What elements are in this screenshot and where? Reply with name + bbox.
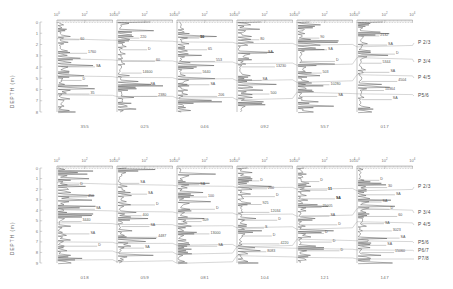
measurement-annotation: 60	[156, 59, 160, 63]
measurement-annotation: D	[260, 179, 263, 183]
measurement-annotation: 8083	[267, 250, 275, 254]
depth-tick-label: 2	[28, 42, 38, 47]
borehole-trace	[358, 168, 395, 264]
horizon-correlation-line	[57, 92, 414, 100]
figure-canvas: DEPTH (m) 012345678100102104355601760SAD…	[0, 0, 453, 289]
measurement-annotation: D	[396, 52, 399, 56]
depth-tick-label: 1	[28, 176, 38, 181]
measurement-annotation: D	[325, 231, 328, 235]
measurement-annotation: D	[338, 223, 341, 227]
measurement-annotation: D	[83, 78, 86, 82]
measurement-annotation: 11	[328, 188, 332, 192]
horizon-label: P 3/4	[418, 210, 431, 215]
horizon-correlation-line	[57, 39, 414, 47]
measurement-annotation: 60	[398, 214, 402, 218]
x-tick-label: 102	[142, 157, 148, 163]
x-tick-label: 102	[202, 11, 208, 17]
measurement-annotation: D	[278, 218, 281, 222]
depth-tick-label: 8	[28, 110, 38, 115]
x-tick-label: 102	[382, 11, 388, 17]
x-tick-label: 104	[409, 157, 415, 163]
x-tick-label: 100	[174, 157, 180, 163]
measurement-annotation: 1760	[88, 51, 96, 55]
measurement-annotation: D	[148, 48, 151, 52]
x-tick-label: 102	[262, 11, 268, 17]
horizon-label: P 4/5	[418, 75, 431, 80]
measurement-annotation: SA	[388, 43, 393, 47]
horizon-label: P5/6	[418, 240, 429, 245]
measurement-annotation: 3023	[393, 229, 401, 233]
measurement-annotation: 5640	[203, 71, 211, 75]
x-tick-label: 102	[322, 157, 328, 163]
measurement-annotation: D	[333, 240, 336, 244]
measurement-annotation: 65	[208, 48, 212, 52]
bottom-plot-svg	[0, 145, 453, 289]
measurement-annotation: 10280	[330, 83, 340, 87]
borehole-trace	[178, 168, 216, 264]
measurement-annotation: 503	[323, 71, 329, 75]
measurement-annotation: SA	[150, 83, 155, 87]
depth-tick-label: 2	[28, 187, 38, 192]
depth-tick-label: 3	[28, 197, 38, 202]
measurement-annotation: 80	[260, 38, 264, 42]
measurement-annotation: 500	[270, 92, 276, 96]
measurement-annotation: SA	[383, 200, 388, 204]
measurement-annotation: 400	[143, 214, 149, 218]
measurement-annotation: SA	[96, 65, 101, 69]
x-tick-label: 102	[142, 11, 148, 17]
x-tick-label: 102	[262, 157, 268, 163]
measurement-annotation: D	[380, 178, 383, 182]
x-tick-label: 100	[54, 11, 60, 17]
x-tick-label: 100	[234, 11, 240, 17]
measurement-annotation: SA	[393, 97, 398, 101]
x-tick-label: 100	[294, 11, 300, 17]
x-tick-label: 100	[114, 11, 120, 17]
measurement-annotation: SA	[90, 232, 95, 236]
measurement-annotation: 50	[200, 36, 204, 40]
depth-tick-label: 3	[28, 53, 38, 58]
borehole-label: 017	[345, 124, 425, 129]
depth-tick-label: 5	[28, 76, 38, 81]
x-tick-label: 100	[354, 157, 360, 163]
borehole-trace	[118, 168, 156, 263]
borehole-trace	[298, 22, 338, 113]
measurement-annotation: 90	[320, 36, 324, 40]
measurement-annotation: 5344	[383, 61, 391, 65]
measurement-annotation: SA	[385, 222, 390, 226]
x-tick-label: 102	[82, 157, 88, 163]
measurement-annotation: 14600	[143, 71, 153, 75]
measurement-annotation: 4220	[281, 242, 289, 246]
measurement-annotation: SA	[328, 48, 333, 52]
measurement-annotation: SA	[150, 224, 155, 228]
measurement-annotation: 30	[388, 185, 392, 189]
panel-group-bottom: DEPTH (m) 0123456789100102104018D450SA34…	[0, 145, 453, 289]
measurement-annotation: 4504	[398, 79, 406, 83]
depth-tick-label: 0	[28, 20, 38, 25]
measurement-annotation: 220	[140, 36, 146, 40]
measurement-annotation: SA	[390, 70, 395, 74]
measurement-annotation: SA	[268, 51, 273, 55]
x-tick-label: 100	[354, 11, 360, 17]
measurement-annotation: D	[98, 244, 101, 248]
x-tick-label: 100	[54, 157, 60, 163]
x-tick-label: 104	[409, 11, 415, 17]
borehole-label: 147	[345, 275, 425, 280]
measurement-annotation: 3440	[83, 219, 91, 223]
horizon-correlation-line	[57, 256, 414, 264]
measurement-annotation: D	[156, 203, 159, 207]
depth-tick-label: 0	[28, 166, 38, 171]
measurement-annotation: SA	[148, 192, 153, 196]
measurement-annotation: 60	[80, 38, 84, 42]
measurement-annotation: SA	[338, 94, 343, 98]
measurement-annotation: 200	[268, 187, 274, 191]
horizon-label: P5/6	[418, 93, 429, 98]
measurement-annotation: SA	[210, 83, 215, 87]
measurement-annotation: D	[273, 234, 276, 238]
depth-tick-label: 5	[28, 218, 38, 223]
depth-tick-label: 7	[28, 98, 38, 103]
measurement-annotation: D	[390, 207, 393, 211]
measurement-annotation: S	[265, 226, 267, 230]
measurement-annotation: D	[80, 183, 83, 187]
measurement-annotation: SA	[140, 181, 145, 185]
measurement-annotation: D	[276, 194, 279, 198]
